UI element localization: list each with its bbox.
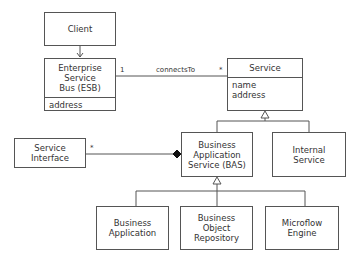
connects-source-multiplicity: 1 [120, 66, 124, 74]
class-service[interactable]: Service name address [227, 58, 303, 111]
connects-target-multiplicity: * [219, 66, 223, 74]
class-business-application[interactable]: Business Application [96, 206, 169, 250]
class-name: Client [45, 13, 115, 45]
class-name: Service Interface [15, 139, 85, 167]
class-name: Microflow Engine [266, 207, 338, 249]
class-client[interactable]: Client [44, 12, 116, 46]
class-name: Business Application Service (BAS) [182, 133, 252, 176]
class-name: Enterprise Service Bus (ESB) [45, 59, 115, 97]
class-service-interface[interactable]: Service Interface [14, 138, 86, 168]
class-bas[interactable]: Business Application Service (BAS) [181, 132, 253, 177]
class-microflow-engine[interactable]: Microflow Engine [265, 206, 339, 250]
class-business-object-repository[interactable]: Business Object Repository [180, 206, 253, 250]
class-name: Service [228, 59, 302, 77]
class-esb[interactable]: Enterprise Service Bus (ESB) address [44, 58, 116, 111]
class-name: Internal Service [273, 133, 345, 176]
class-internal-service[interactable]: Internal Service [272, 132, 346, 177]
class-name: Business Object Repository [181, 207, 252, 249]
class-name: Business Application [97, 207, 168, 249]
connects-label: connectsTo [156, 66, 195, 74]
class-attributes: address [45, 97, 115, 112]
class-attributes: name address [228, 77, 302, 102]
composition-multiplicity: * [90, 144, 94, 152]
